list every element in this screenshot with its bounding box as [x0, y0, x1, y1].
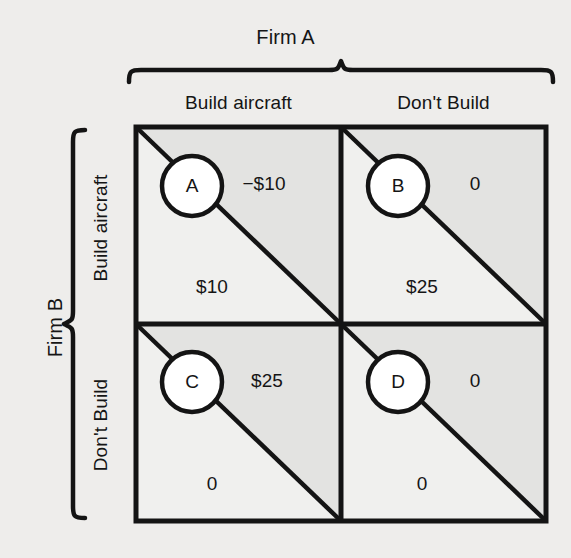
row-header-dont-build: Don't Build: [90, 323, 112, 528]
row-header-build-aircraft: Build aircraft: [90, 126, 112, 331]
cell-d-firm-b-payoff: 0: [377, 473, 467, 495]
cell-d-letter: D: [376, 360, 420, 404]
column-header-build-aircraft: Build aircraft: [136, 92, 341, 114]
payoff-matrix-graphic: [0, 0, 571, 558]
cell-d-firm-a-payoff: 0: [430, 370, 520, 392]
cell-c-firm-b-payoff: 0: [167, 473, 257, 495]
cell-b-letter: B: [376, 164, 420, 208]
cell-b-firm-b-payoff: $25: [377, 276, 467, 298]
figure-canvas: Firm A Build aircraft Don't Build Firm B…: [0, 0, 571, 558]
column-header-dont-build: Don't Build: [341, 92, 546, 114]
cell-a-letter: A: [170, 164, 214, 208]
firm-a-axis-title: Firm A: [0, 26, 571, 49]
cell-b-firm-a-payoff: 0: [430, 173, 520, 195]
cell-c-firm-a-payoff: $25: [222, 370, 312, 392]
cell-c-letter: C: [170, 360, 214, 404]
firm-a-brace: [129, 61, 553, 82]
cell-a-firm-b-payoff: $10: [167, 276, 257, 298]
firm-b-brace: [64, 130, 85, 518]
cell-a-firm-a-payoff: −$10: [219, 173, 309, 195]
firm-b-axis-title: Firm B: [44, 128, 67, 528]
